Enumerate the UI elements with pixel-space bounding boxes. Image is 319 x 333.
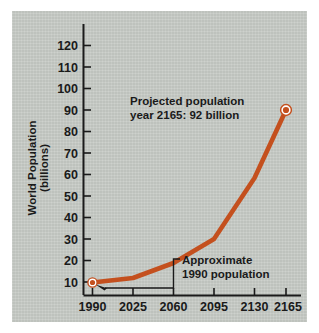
population-line-chart: 120 110 100 90 80 70 60 50 40 30 20 10 1…	[0, 0, 319, 333]
y-tick-label-30: 30	[64, 233, 78, 247]
x-axis-ticks	[93, 288, 287, 296]
y-axis-title-line2: (billions)	[38, 144, 50, 192]
x-tick-label-2095: 2095	[200, 300, 228, 314]
annotation-projected-population: Projected population year 2165: 92 billi…	[130, 95, 244, 121]
y-axis-title: World Population (billions)	[26, 121, 50, 216]
y-axis-title-line1: World Population	[26, 121, 38, 216]
marker-2165-core	[283, 107, 289, 113]
y-tick-label-100: 100	[57, 82, 78, 96]
x-axis-tick-labels: 1990 2025 2060 2095 2130 2165	[79, 300, 302, 314]
y-tick-label-10: 10	[64, 276, 78, 290]
x-tick-label-2130: 2130	[241, 300, 269, 314]
y-tick-label-20: 20	[64, 254, 78, 268]
y-tick-label-70: 70	[64, 147, 78, 161]
annotation-approximate-1990: Approximate 1990 population	[182, 254, 270, 280]
x-tick-label-1990: 1990	[79, 300, 107, 314]
y-tick-label-120: 120	[57, 39, 78, 53]
x-tick-label-2165: 2165	[274, 300, 302, 314]
y-tick-label-40: 40	[64, 211, 78, 225]
y-tick-label-50: 50	[64, 190, 78, 204]
y-axis-tick-labels: 120 110 100 90 80 70 60 50 40 30 20 10	[57, 39, 78, 290]
y-axis-ticks	[84, 46, 92, 283]
marker-1990-core	[90, 280, 95, 285]
annotation-approximate-line1: Approximate	[182, 254, 252, 266]
annotation-projected-line2: year 2165: 92 billion	[130, 109, 239, 121]
y-tick-label-110: 110	[58, 61, 78, 75]
annotation-projected-line1: Projected population	[130, 95, 244, 107]
y-tick-label-80: 80	[64, 125, 78, 139]
y-tick-label-60: 60	[64, 168, 78, 182]
annotation-approximate-line2: 1990 population	[182, 268, 270, 280]
x-tick-label-2060: 2060	[160, 300, 188, 314]
x-tick-label-2025: 2025	[119, 300, 147, 314]
y-tick-label-90: 90	[64, 104, 78, 118]
chart-figure: 120 110 100 90 80 70 60 50 40 30 20 10 1…	[0, 0, 319, 333]
